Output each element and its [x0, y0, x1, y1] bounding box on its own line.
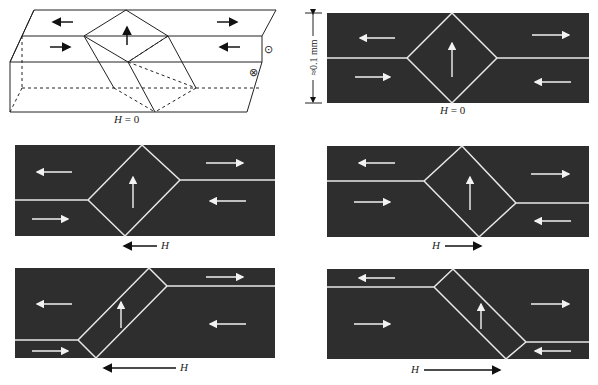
caption-bot-left: H — [180, 361, 188, 373]
caption-bot-right: H — [411, 363, 419, 375]
caption-mid-left: H — [161, 239, 169, 251]
panel-3d-block — [10, 10, 276, 112]
into-page-symbol: ⊗ — [249, 66, 258, 78]
caption-mid-right: H — [432, 239, 440, 251]
caption-top-right: H = 0 — [440, 104, 465, 116]
panel-mid-right — [327, 146, 589, 246]
domain-figure: ⊙ ⊗ — [0, 0, 598, 385]
scale-label: ≈0.1 mm — [308, 30, 319, 86]
out-of-page-symbol: ⊙ — [264, 43, 273, 55]
panel-bot-right — [327, 269, 589, 370]
panel-bot-left — [15, 268, 275, 368]
panel-top-right — [305, 13, 589, 103]
caption-3d-block: H = 0 — [114, 113, 139, 125]
panel-mid-left — [15, 145, 275, 246]
